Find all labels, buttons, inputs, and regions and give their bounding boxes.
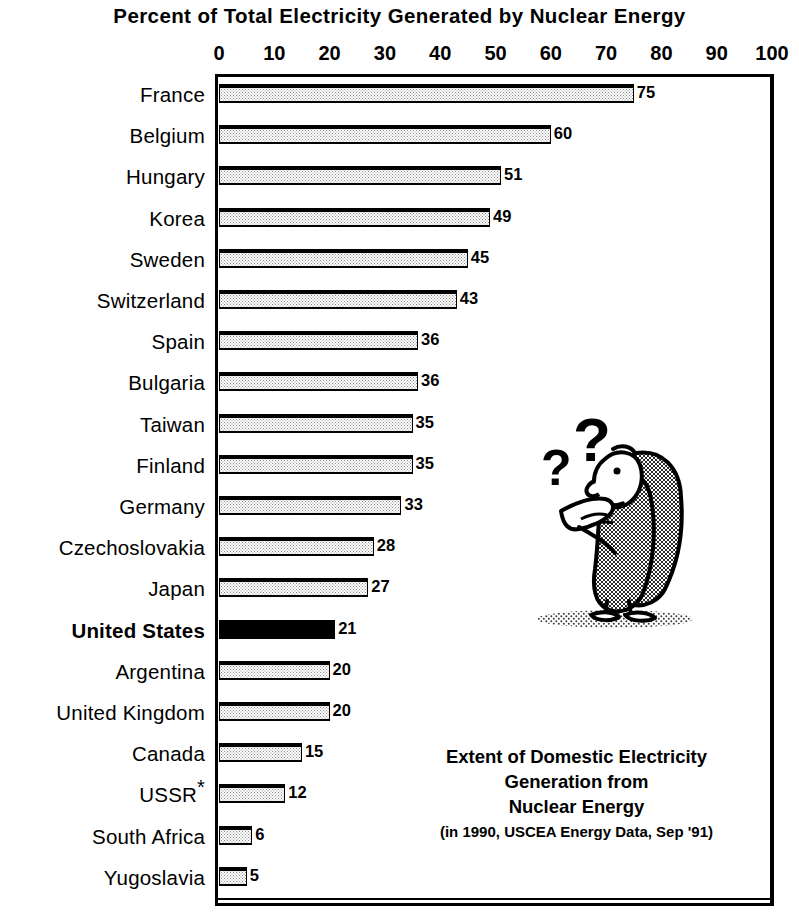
bar-row: Switzerland43: [0, 286, 799, 316]
bar-belgium: [219, 125, 551, 144]
category-label-czechoslovakia: Czechoslovakia: [59, 535, 205, 560]
bar-sweden: [219, 249, 468, 268]
category-label-text: Germany: [119, 495, 205, 518]
bar-value-label: 33: [404, 495, 422, 514]
bar-finland: [219, 455, 413, 474]
category-label-text: Belgium: [130, 124, 205, 147]
category-label-text: Japan: [148, 577, 205, 600]
bar-value-label: 20: [333, 660, 351, 679]
category-label-text: Spain: [152, 330, 205, 353]
bar-value-label: 75: [637, 83, 655, 102]
footnote-asterisk: *: [197, 777, 205, 799]
bar-hungary: [219, 166, 501, 185]
bar-value-label: 35: [416, 454, 434, 473]
bar-value-label: 35: [416, 413, 434, 432]
bar-value-label: 28: [377, 536, 395, 555]
bar-row: Yugoslavia5: [0, 863, 799, 893]
bar-argentina: [219, 661, 330, 680]
bar-united-states: [219, 620, 335, 639]
category-label-text: USSR: [139, 783, 197, 806]
svg-text:?: ?: [541, 440, 572, 496]
bar-switzerland: [219, 290, 457, 309]
category-label-text: France: [140, 83, 205, 106]
bar-taiwan: [219, 414, 413, 433]
caption-source-note: (in 1990, USCEA Energy Data, Sep '91): [404, 820, 749, 844]
category-label-korea: Korea: [149, 206, 205, 231]
bar-japan: [219, 578, 368, 597]
bar-value-label: 20: [333, 701, 351, 720]
category-label-switzerland: Switzerland: [97, 288, 205, 313]
bar-value-label: 21: [338, 619, 356, 638]
category-label-text: Sweden: [130, 248, 205, 271]
category-label-finland: Finland: [136, 453, 205, 478]
category-label-spain: Spain: [152, 329, 205, 354]
category-label-text: Yugoslavia: [104, 866, 205, 889]
category-label-ussr: USSR*: [139, 782, 205, 807]
category-label-japan: Japan: [148, 576, 205, 601]
bar-row: Spain36: [0, 327, 799, 357]
bar-value-label: 15: [305, 742, 323, 761]
bar-value-label: 5: [250, 866, 259, 885]
category-label-united-states: United States: [71, 618, 205, 643]
bar-united-kingdom: [219, 702, 330, 721]
caption-line-1: Extent of Domestic Electricity: [404, 744, 749, 769]
category-label-text: Switzerland: [97, 289, 205, 312]
category-label-yugoslavia: Yugoslavia: [104, 865, 205, 890]
category-label-argentina: Argentina: [115, 659, 205, 684]
category-label-text: Bulgaria: [128, 371, 205, 394]
puzzled-figure-cartoon-icon: ? ?: [495, 415, 725, 645]
caption-block: Extent of Domestic Electricity Generatio…: [404, 744, 749, 844]
bar-germany: [219, 496, 401, 515]
category-label-canada: Canada: [132, 741, 205, 766]
bar-value-label: 45: [471, 248, 489, 267]
caption-line-3: Nuclear Energy: [404, 794, 749, 819]
bar-row: Sweden45: [0, 245, 799, 275]
bar-value-label: 6: [255, 825, 264, 844]
bar-south-africa: [219, 826, 252, 845]
bar-france: [219, 84, 634, 103]
bar-korea: [219, 208, 490, 227]
bar-spain: [219, 331, 418, 350]
category-label-text: United Kingdom: [56, 701, 205, 724]
bar-row: Argentina20: [0, 657, 799, 687]
category-label-text: South Africa: [92, 825, 205, 848]
bar-yugoslavia: [219, 867, 247, 886]
bar-value-label: 60: [554, 124, 572, 143]
bar-row: France75: [0, 80, 799, 110]
bar-bulgaria: [219, 372, 418, 391]
category-label-france: France: [140, 82, 205, 107]
category-label-text: Hungary: [126, 165, 205, 188]
category-label-text: Czechoslovakia: [59, 536, 205, 559]
svg-text:?: ?: [573, 415, 611, 474]
category-label-text: Korea: [149, 207, 205, 230]
bar-value-label: 12: [288, 783, 306, 802]
bar-czechoslovakia: [219, 537, 374, 556]
category-label-bulgaria: Bulgaria: [128, 370, 205, 395]
bar-row: Bulgaria36: [0, 368, 799, 398]
bar-row: Korea49: [0, 204, 799, 234]
category-label-germany: Germany: [119, 494, 205, 519]
chart-page: Percent of Total Electricity Generated b…: [0, 0, 799, 914]
bar-value-label: 36: [421, 330, 439, 349]
bar-value-label: 49: [493, 207, 511, 226]
category-label-text: Finland: [136, 454, 205, 477]
bar-row: Belgium60: [0, 121, 799, 151]
category-label-sweden: Sweden: [130, 247, 205, 272]
bar-row: Hungary51: [0, 162, 799, 192]
category-label-belgium: Belgium: [130, 123, 205, 148]
category-label-taiwan: Taiwan: [140, 412, 205, 437]
category-label-text: United States: [71, 619, 205, 642]
caption-line-2: Generation from: [404, 769, 749, 794]
category-label-hungary: Hungary: [126, 164, 205, 189]
category-label-south-africa: South Africa: [92, 824, 205, 849]
bar-value-label: 27: [371, 577, 389, 596]
bar-row: United Kingdom20: [0, 698, 799, 728]
bar-value-label: 36: [421, 371, 439, 390]
bar-value-label: 51: [504, 165, 522, 184]
bar-canada: [219, 743, 302, 762]
category-label-text: Taiwan: [140, 413, 205, 436]
category-label-text: Argentina: [115, 660, 205, 683]
bar-value-label: 43: [460, 289, 478, 308]
category-label-text: Canada: [132, 742, 205, 765]
bar-ussr: [219, 784, 285, 803]
